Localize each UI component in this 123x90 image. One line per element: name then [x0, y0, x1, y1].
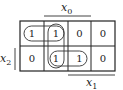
cell-r1-c2: 1: [68, 46, 91, 71]
x0-label: x0: [61, 2, 72, 16]
cell-r1-c0: 0: [20, 46, 44, 71]
x1-label: x1: [86, 77, 97, 90]
cell-r0-c1: 1: [44, 21, 68, 46]
x2-label: x2: [0, 53, 11, 67]
cell-r0-c0: 1: [20, 21, 44, 46]
cell-r0-c3: 0: [91, 21, 115, 46]
cell-r1-c3: 0: [91, 46, 115, 71]
cell-r0-c2: 0: [68, 21, 91, 46]
cell-r1-c1: 1: [44, 46, 68, 71]
